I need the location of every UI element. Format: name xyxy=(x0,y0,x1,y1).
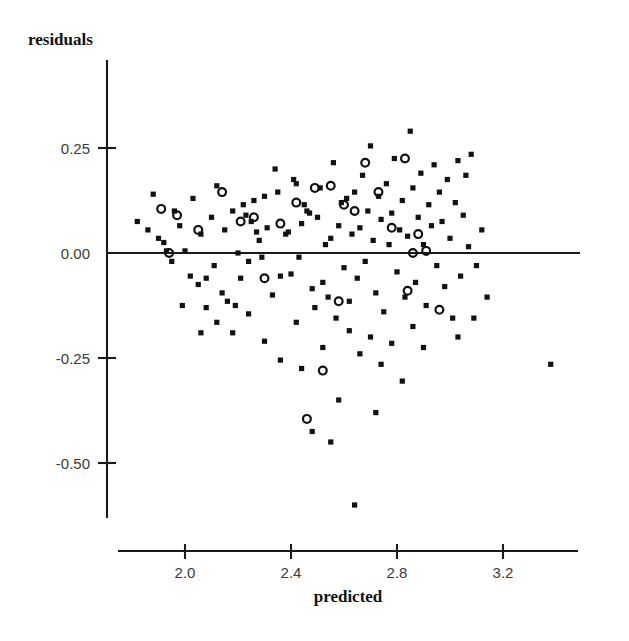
data-point-square xyxy=(161,240,166,245)
data-point-circle xyxy=(388,224,396,232)
data-point-square xyxy=(233,303,238,308)
data-point-square xyxy=(347,299,352,304)
data-point-square xyxy=(381,309,386,314)
data-point-square xyxy=(270,292,275,297)
data-point-square xyxy=(474,263,479,268)
data-point-square xyxy=(204,276,209,281)
data-point-square xyxy=(386,242,391,247)
data-point-square xyxy=(413,280,418,285)
data-point-square xyxy=(410,324,415,329)
data-point-square xyxy=(257,238,262,243)
data-point-square xyxy=(180,303,185,308)
data-point-square xyxy=(471,316,476,321)
data-point-square xyxy=(296,255,301,260)
data-point-square xyxy=(198,330,203,335)
data-point-square xyxy=(400,379,405,384)
data-point-square xyxy=(278,274,283,279)
data-point-square xyxy=(307,211,312,216)
x-tick-label: 2.4 xyxy=(281,564,302,581)
data-point-circle xyxy=(401,155,409,163)
data-point-square xyxy=(214,183,219,188)
data-point-square xyxy=(331,160,336,165)
data-point-square xyxy=(363,259,368,264)
data-point-circle xyxy=(303,415,311,423)
data-point-square xyxy=(243,213,248,218)
data-point-square xyxy=(246,259,251,264)
data-point-square xyxy=(437,190,442,195)
x-axis-tick-labels: 2.02.42.83.2 xyxy=(175,564,514,581)
data-point-circle xyxy=(361,159,369,167)
data-point-square xyxy=(455,334,460,339)
data-point-square xyxy=(458,274,463,279)
data-point-circle xyxy=(261,274,269,282)
data-point-circle xyxy=(335,297,343,305)
data-point-square xyxy=(397,227,402,232)
data-point-square xyxy=(418,171,423,176)
data-point-square xyxy=(447,236,452,241)
data-point-square xyxy=(455,158,460,163)
data-point-square xyxy=(336,397,341,402)
data-point-circle xyxy=(351,207,359,215)
x-tick-label: 2.8 xyxy=(387,564,408,581)
data-point-square xyxy=(445,177,450,182)
data-point-square xyxy=(156,236,161,241)
data-point-square xyxy=(368,143,373,148)
data-point-square xyxy=(392,156,397,161)
data-point-square xyxy=(230,330,235,335)
y-axis-title: residuals xyxy=(28,30,93,49)
data-point-square xyxy=(357,225,362,230)
data-point-square xyxy=(212,263,217,268)
data-point-square xyxy=(410,185,415,190)
data-point-square xyxy=(262,339,267,344)
data-point-circle xyxy=(319,367,327,375)
plot-canvas: 0.250.00-0.25-0.50 2.02.42.83.2 residual… xyxy=(0,0,629,641)
data-point-square xyxy=(288,271,293,276)
data-point-circle xyxy=(277,220,285,228)
data-point-square xyxy=(177,223,182,228)
data-point-square xyxy=(182,248,187,253)
data-point-square xyxy=(349,232,354,237)
data-point-square xyxy=(238,276,243,281)
data-point-circle xyxy=(404,287,412,295)
data-point-circle xyxy=(194,226,202,234)
data-point-square xyxy=(469,152,474,157)
data-point-square xyxy=(373,410,378,415)
data-point-square xyxy=(439,219,444,224)
data-point-square xyxy=(357,351,362,356)
data-point-circle xyxy=(250,213,258,221)
data-point-square xyxy=(135,219,140,224)
data-point-square xyxy=(241,202,246,207)
data-point-square xyxy=(235,250,240,255)
data-point-square xyxy=(225,299,230,304)
data-point-square xyxy=(379,362,384,367)
y-tick-label: -0.50 xyxy=(56,455,90,472)
data-point-square xyxy=(320,345,325,350)
y-tick-label: 0.00 xyxy=(61,245,90,262)
data-point-square xyxy=(368,334,373,339)
scatter-plot-figure: 0.250.00-0.25-0.50 2.02.42.83.2 residual… xyxy=(0,0,629,641)
data-point-square xyxy=(371,238,376,243)
data-point-square xyxy=(294,320,299,325)
data-point-square xyxy=(352,190,357,195)
data-point-square xyxy=(394,269,399,274)
x-tick-label: 2.0 xyxy=(175,564,196,581)
data-point-square xyxy=(315,215,320,220)
data-point-square xyxy=(196,282,201,287)
data-point-square xyxy=(379,217,384,222)
data-point-square xyxy=(352,502,357,507)
data-point-square xyxy=(294,181,299,186)
data-point-square xyxy=(209,215,214,220)
data-point-square xyxy=(347,328,352,333)
data-point-square xyxy=(341,265,346,270)
x-tick-label: 3.2 xyxy=(493,564,514,581)
data-point-square xyxy=(278,358,283,363)
y-axis-tick-labels: 0.250.00-0.25-0.50 xyxy=(56,140,90,472)
data-point-square xyxy=(312,305,317,310)
data-point-square xyxy=(151,192,156,197)
data-point-square xyxy=(355,276,360,281)
data-point-square xyxy=(429,223,434,228)
data-point-square xyxy=(310,429,315,434)
data-point-circle xyxy=(436,306,444,314)
data-point-square xyxy=(432,162,437,167)
data-point-square xyxy=(421,345,426,350)
